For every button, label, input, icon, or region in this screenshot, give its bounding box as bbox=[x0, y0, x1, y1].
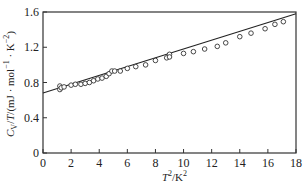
data-point bbox=[73, 82, 78, 87]
data-points bbox=[58, 19, 286, 91]
y-tick-label: 0 bbox=[33, 146, 39, 160]
x-tick-label: 8 bbox=[152, 156, 158, 170]
x-tick-label: 4 bbox=[96, 156, 102, 170]
data-point bbox=[118, 69, 123, 74]
data-point bbox=[167, 55, 172, 60]
data-point bbox=[181, 51, 186, 56]
x-axis-ticks: 024681012141618 bbox=[40, 149, 302, 170]
data-point bbox=[223, 41, 228, 46]
data-point bbox=[273, 22, 278, 27]
data-point bbox=[125, 66, 130, 71]
x-axis-label: T2/K2 bbox=[162, 169, 187, 183]
data-point bbox=[263, 26, 268, 31]
x-tick-label: 16 bbox=[262, 156, 274, 170]
y-tick-label: 1.6 bbox=[24, 5, 39, 19]
data-point bbox=[249, 31, 254, 36]
data-point bbox=[281, 19, 286, 24]
data-point bbox=[62, 85, 67, 90]
data-point bbox=[153, 58, 158, 63]
x-tick-label: 12 bbox=[206, 156, 218, 170]
x-tick-label: 14 bbox=[234, 156, 246, 170]
x-tick-label: 0 bbox=[40, 156, 46, 170]
chart: 024681012141618 00.40.81.21.6 T2/K2CV/T/… bbox=[0, 0, 306, 188]
y-tick-label: 0.4 bbox=[24, 111, 39, 125]
x-tick-label: 2 bbox=[68, 156, 74, 170]
x-tick-label: 10 bbox=[178, 156, 190, 170]
data-point bbox=[112, 69, 117, 74]
y-tick-label: 0.8 bbox=[24, 76, 39, 90]
data-point bbox=[143, 63, 148, 68]
data-point bbox=[191, 49, 196, 54]
x-tick-label: 18 bbox=[290, 156, 302, 170]
x-tick-label: 6 bbox=[124, 156, 130, 170]
data-point bbox=[133, 64, 138, 69]
data-point bbox=[202, 47, 207, 52]
data-point bbox=[237, 34, 242, 39]
y-tick-label: 1.2 bbox=[24, 40, 39, 54]
y-axis-label: CV/T/(mJ · mol−1 · K−2) bbox=[2, 31, 19, 137]
data-point bbox=[215, 44, 220, 49]
